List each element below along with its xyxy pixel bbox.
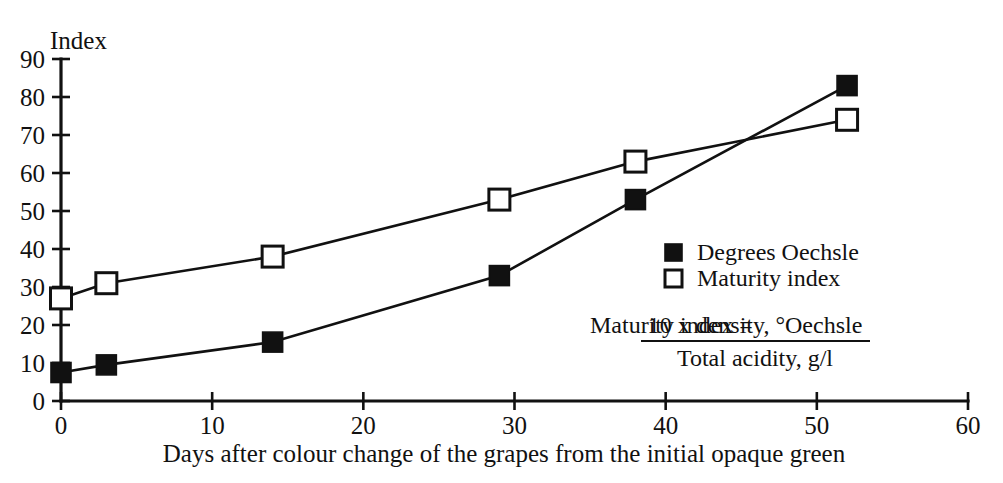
legend-marker-maturity-index bbox=[665, 270, 682, 287]
legend-label-degrees-oechsle: Degrees Oechsle bbox=[697, 239, 859, 265]
y-tick-label: 80 bbox=[20, 84, 45, 111]
data-point-maturity-index-5 bbox=[837, 109, 858, 130]
data-point-maturity-index-1 bbox=[96, 273, 117, 294]
x-tick-label: 10 bbox=[200, 412, 225, 439]
y-axis-title: Index bbox=[50, 27, 107, 54]
maturity-index-formula: Maturity index = 10 x density, °Oechsle … bbox=[590, 312, 870, 371]
x-axis-ticks: 0102030405060 bbox=[55, 392, 981, 439]
legend-label-maturity-index: Maturity index bbox=[697, 265, 840, 291]
x-tick-label: 40 bbox=[653, 412, 678, 439]
x-tick-label: 0 bbox=[55, 412, 68, 439]
y-tick-label: 30 bbox=[20, 274, 45, 301]
legend-marker-degrees-oechsle bbox=[665, 244, 682, 261]
y-tick-label: 10 bbox=[20, 350, 45, 377]
data-point-degrees-oechsle-1 bbox=[96, 355, 116, 375]
data-point-degrees-oechsle-4 bbox=[625, 190, 645, 210]
y-tick-label: 70 bbox=[20, 122, 45, 149]
x-tick-label: 20 bbox=[351, 412, 376, 439]
data-point-maturity-index-3 bbox=[489, 189, 510, 210]
chart-figure: Index 0102030405060708090 0102030405060 … bbox=[0, 0, 1003, 483]
x-tick-label: 60 bbox=[956, 412, 981, 439]
x-tick-label: 30 bbox=[502, 412, 527, 439]
y-tick-label: 20 bbox=[20, 312, 45, 339]
y-tick-label: 50 bbox=[20, 198, 45, 225]
y-tick-label: 40 bbox=[20, 236, 45, 263]
data-point-degrees-oechsle-2 bbox=[263, 332, 283, 352]
data-point-degrees-oechsle-5 bbox=[837, 76, 857, 96]
data-point-maturity-index-0 bbox=[51, 288, 72, 309]
y-tick-label: 90 bbox=[20, 46, 45, 73]
data-point-degrees-oechsle-0 bbox=[51, 363, 71, 383]
formula-numerator: 10 x density, °Oechsle bbox=[648, 312, 863, 338]
legend: Degrees Oechsle Maturity index bbox=[665, 239, 859, 291]
data-point-maturity-index-2 bbox=[262, 246, 283, 267]
y-tick-label: 0 bbox=[33, 388, 46, 415]
data-point-degrees-oechsle-3 bbox=[489, 266, 509, 286]
chart-canvas: Index 0102030405060708090 0102030405060 … bbox=[0, 0, 1003, 483]
formula-denominator: Total acidity, g/l bbox=[677, 345, 833, 371]
x-tick-label: 50 bbox=[804, 412, 829, 439]
y-tick-label: 60 bbox=[20, 160, 45, 187]
data-point-maturity-index-4 bbox=[625, 151, 646, 172]
x-axis-title: Days after colour change of the grapes f… bbox=[163, 440, 846, 467]
